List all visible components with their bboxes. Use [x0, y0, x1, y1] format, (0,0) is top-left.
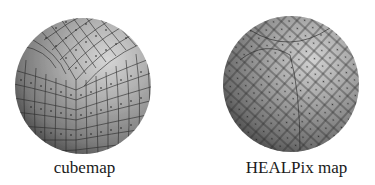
- healpix-caption: HEALPix map: [203, 158, 375, 178]
- healpix-sphere-icon: [188, 0, 375, 160]
- cubemap-figure: cubemap: [0, 0, 187, 185]
- cubemap-sphere-icon: [0, 0, 187, 160]
- cubemap-caption: cubemap: [0, 158, 178, 178]
- healpix-figure: HEALPix map: [188, 0, 375, 185]
